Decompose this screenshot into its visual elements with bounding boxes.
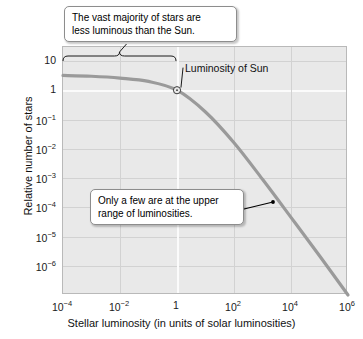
annotation-lines-layer	[0, 0, 363, 339]
majority-bracket	[63, 52, 176, 61]
majority-callout: The vast majority of stars are less lumi…	[64, 6, 237, 42]
upper-range-pointer-dot	[271, 200, 275, 204]
upper-range-pointer	[244, 202, 273, 209]
majority-callout-line1: The vast majority of stars are	[72, 11, 230, 24]
sun-label: Luminosity of Sun	[185, 62, 268, 74]
majority-bracket-stem	[120, 44, 127, 52]
upper-range-callout-line1: Only a few are at the upper	[98, 194, 237, 207]
luminosity-function-figure: 10110−110−210−310−410−510−6 10−410−21102…	[0, 0, 363, 339]
sun-label-pointer	[181, 68, 183, 87]
upper-range-callout-line2: range of luminosities.	[98, 207, 237, 220]
upper-range-callout: Only a few are at the upper range of lum…	[90, 189, 244, 225]
sun-label-text: Luminosity of Sun	[185, 62, 268, 74]
majority-callout-line2: less luminous than the Sun.	[72, 24, 230, 37]
